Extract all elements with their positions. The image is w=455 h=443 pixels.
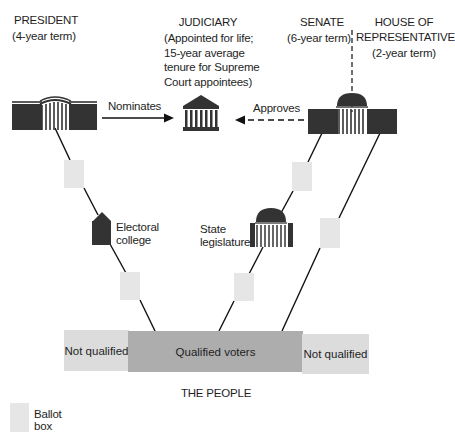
state-legislature-label: State legislature [200, 223, 250, 249]
house-label-line: HOUSE OF [356, 15, 452, 30]
judiciary-label: JUDICIARY [158, 15, 258, 29]
ballot-to-people-line-2 [219, 301, 234, 331]
state-legislature-line: legislature [200, 236, 250, 249]
house-label: HOUSE OF REPRESENTATIVES [356, 15, 452, 45]
approves-arrow [235, 116, 304, 125]
ballot-to-people-line-3 [282, 248, 320, 331]
electoral-college-line: college [116, 234, 159, 247]
legend-ballot-box-label: Ballot box [34, 408, 62, 432]
capitol-icon [308, 93, 397, 134]
judiciary-term-line: (Appointed for life; [164, 31, 259, 46]
segment-label: Not qualified [65, 345, 129, 357]
approves-label: Approves [253, 101, 300, 115]
state-legislature-line: State [200, 223, 250, 236]
legend-line: Ballot [34, 408, 62, 420]
president-term: (4-year term) [12, 29, 76, 43]
house-to-ballot-line [339, 131, 381, 218]
state-legislature-icon [250, 208, 293, 247]
senate-term: (6-year term) [286, 31, 352, 45]
electoral-college-label: Electoral college [116, 221, 159, 247]
president-to-ballot-line [55, 128, 70, 160]
house-label-line: REPRESENTATIVES [356, 30, 452, 45]
judiciary-term-line: Court appointees) [164, 75, 259, 90]
legend-ballot-box-icon [10, 403, 29, 432]
supreme-court-icon [183, 95, 219, 131]
ballot-box-icon [64, 160, 84, 188]
ballot-to-legislature-line [281, 191, 293, 213]
segment-label: Not qualified [304, 348, 368, 360]
not-qualified-segment-right: Not qualified [302, 334, 369, 374]
electoral-college-icon [92, 212, 111, 245]
qualified-voters-segment: Qualified voters [128, 331, 303, 372]
judiciary-term: (Appointed for life; 15-year average ten… [164, 31, 259, 89]
judiciary-term-line: tenure for Supreme [164, 60, 259, 75]
nominates-label: Nominates [108, 99, 161, 113]
white-house-icon [12, 97, 97, 130]
ballot-box-icon [320, 218, 340, 248]
senate-label: SENATE [292, 15, 352, 29]
electoral-college-line: Electoral [116, 221, 159, 234]
nominates-arrow [102, 114, 174, 123]
ballot-to-people-line-1 [140, 300, 155, 331]
ballot-to-electoral-line [84, 188, 98, 215]
electoral-to-ballot-line [110, 244, 126, 273]
ballot-box-icon [234, 273, 254, 301]
ballot-box-icon [292, 162, 312, 191]
legislature-to-ballot-line [249, 247, 263, 274]
house-term: (2-year term) [356, 46, 452, 60]
ballot-box-icon [120, 272, 140, 300]
president-label: PRESIDENT [14, 13, 78, 27]
the-people-label: THE PEOPLE [166, 386, 266, 400]
legend-line: box [34, 420, 62, 432]
segment-label: Qualified voters [176, 346, 256, 358]
judiciary-term-line: 15-year average [164, 46, 259, 61]
not-qualified-segment-left: Not qualified [64, 330, 129, 371]
senate-to-ballot-line [308, 131, 323, 162]
